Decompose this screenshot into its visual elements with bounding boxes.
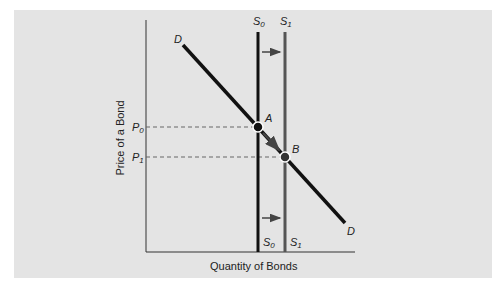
s0-label-top: S0 [253, 15, 265, 29]
point-a-label: A [264, 112, 272, 124]
demand-label-bottom: D [347, 225, 355, 237]
bond-supply-shift-diagram: D D S0 S1 S0 S1 A B P0 P1 Price of a Bon… [0, 0, 498, 288]
y-axis-label: Price of a Bond [114, 100, 126, 175]
s1-label-bottom: S1 [290, 236, 302, 250]
p0-label: P0 [132, 121, 144, 135]
point-a [253, 122, 263, 132]
point-b-label: B [292, 143, 299, 155]
demand-label-top: D [174, 33, 182, 45]
movement-arrow-a-to-b [263, 133, 279, 150]
s0-label-bottom: S0 [263, 236, 275, 250]
s1-label-top: S1 [280, 15, 292, 29]
point-b [280, 152, 290, 162]
p1-label: P1 [132, 151, 144, 165]
x-axis-label: Quantity of Bonds [210, 260, 298, 272]
